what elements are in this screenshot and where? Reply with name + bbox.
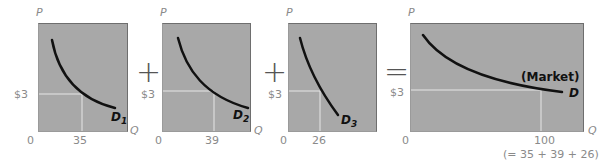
demand-curve-d2	[178, 38, 248, 108]
curves-overlay	[0, 0, 609, 167]
guide-lines	[39, 90, 541, 131]
demand-curve-d3	[300, 38, 338, 115]
market-demand-curve	[423, 35, 562, 92]
demand-curve-d1	[52, 40, 115, 108]
